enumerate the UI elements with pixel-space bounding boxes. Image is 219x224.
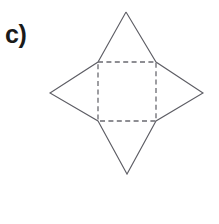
triangle-left-face [50,62,98,121]
figure-container: c) [0,0,219,224]
triangle-bottom-face [98,121,156,174]
square-pyramid-net-diagram [0,0,219,224]
triangle-top-face [98,12,156,62]
triangle-right-face [156,62,203,121]
figure-label-c: c) [5,22,26,47]
square-base-face [98,62,156,121]
